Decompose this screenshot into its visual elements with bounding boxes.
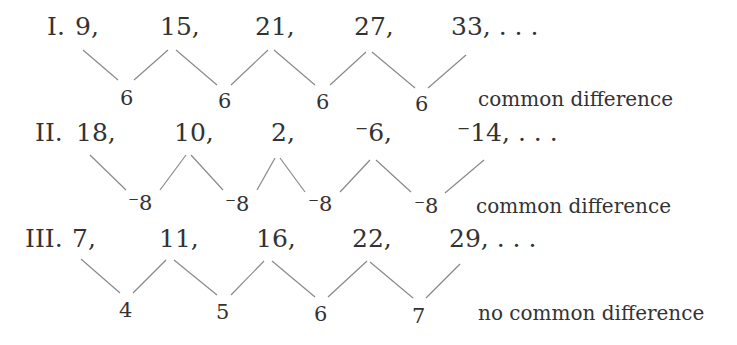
- difference-note: no common difference: [478, 303, 704, 323]
- difference-value: ⁻8: [308, 194, 332, 215]
- sequence-term: 10,: [174, 120, 214, 145]
- sequence-term: 29, . . .: [449, 226, 536, 251]
- sequence-term: 11,: [159, 226, 199, 251]
- sequence-label: II.: [35, 120, 63, 145]
- difference-value: ⁻8: [128, 193, 152, 214]
- sequence-term: 33, . . .: [451, 14, 538, 39]
- difference-value: ⁻8: [414, 196, 438, 217]
- sequence-term: ⁻6,: [355, 120, 392, 145]
- sequence-label: III.: [25, 226, 63, 251]
- sequence-term: 2,: [271, 120, 295, 145]
- difference-note: common difference: [478, 89, 673, 109]
- sequence-label: I.: [47, 14, 65, 39]
- difference-value: 5: [216, 302, 229, 323]
- sequence-term: 27,: [354, 14, 394, 39]
- difference-value: 6: [120, 88, 133, 109]
- sequence-term: 9,: [75, 14, 99, 39]
- difference-value: ⁻8: [225, 194, 249, 215]
- sequence-term: 7,: [72, 226, 96, 251]
- sequence-term: 16,: [256, 226, 296, 251]
- sequence-term: 15,: [160, 14, 200, 39]
- difference-note: common difference: [476, 196, 671, 216]
- difference-value: 4: [119, 300, 132, 321]
- sequence-term: 18,: [76, 120, 116, 145]
- sequence-term: 21,: [255, 14, 295, 39]
- difference-value: 6: [316, 92, 329, 113]
- difference-value: 7: [412, 306, 425, 327]
- sequence-term: 22,: [352, 226, 392, 251]
- difference-value: 6: [218, 91, 231, 112]
- difference-value: 6: [415, 94, 428, 115]
- sequence-term: ⁻14, . . .: [457, 120, 558, 145]
- difference-value: 6: [314, 304, 327, 325]
- connector-lines: [0, 0, 737, 345]
